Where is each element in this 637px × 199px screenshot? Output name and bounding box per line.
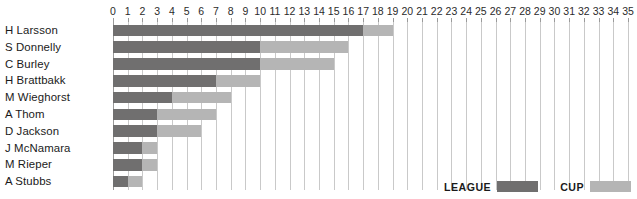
bar-segment-cup[interactable] bbox=[142, 142, 157, 154]
category-label: C Burley bbox=[5, 56, 108, 73]
gridline bbox=[613, 22, 614, 190]
bar-row[interactable] bbox=[113, 58, 334, 70]
category-label: D Jackson bbox=[5, 123, 108, 140]
gridline bbox=[569, 22, 570, 190]
category-label: H Brattbakk bbox=[5, 72, 108, 89]
x-tick-label: 35 bbox=[622, 5, 634, 17]
x-tick-label: 26 bbox=[490, 5, 502, 17]
category-label: M Wieghorst bbox=[5, 89, 108, 106]
bar-row[interactable] bbox=[113, 159, 157, 171]
x-tick-label: 28 bbox=[519, 5, 531, 17]
bar-row[interactable] bbox=[113, 176, 142, 188]
x-tick-label: 31 bbox=[563, 5, 575, 17]
x-tick-label: 29 bbox=[534, 5, 546, 17]
x-tick-label: 6 bbox=[198, 5, 204, 17]
gridline bbox=[628, 22, 629, 190]
bar-row[interactable] bbox=[113, 142, 157, 154]
gridline bbox=[422, 22, 423, 190]
category-label: H Larsson bbox=[5, 22, 108, 39]
category-label: A Thom bbox=[5, 106, 108, 123]
bar-segment-cup[interactable] bbox=[157, 125, 201, 137]
bar-segment-league[interactable] bbox=[113, 125, 157, 137]
gridline bbox=[554, 22, 555, 190]
x-tick-label: 15 bbox=[328, 5, 340, 17]
x-tick-label: 32 bbox=[578, 5, 590, 17]
gridline bbox=[525, 22, 526, 190]
category-label: A Stubbs bbox=[5, 173, 108, 190]
x-tick-label: 3 bbox=[154, 5, 160, 17]
x-tick-label: 11 bbox=[269, 5, 280, 17]
bar-segment-league[interactable] bbox=[113, 75, 216, 87]
x-tick-label: 18 bbox=[372, 5, 384, 17]
gridline bbox=[451, 22, 452, 190]
bar-segment-cup[interactable] bbox=[157, 109, 216, 121]
x-tick-label: 20 bbox=[401, 5, 413, 17]
x-tick-label: 14 bbox=[313, 5, 325, 17]
bar-row[interactable] bbox=[113, 125, 201, 137]
legend-swatch bbox=[590, 181, 631, 192]
category-label: S Donnelly bbox=[5, 39, 108, 56]
bar-row[interactable] bbox=[113, 75, 260, 87]
gridline bbox=[393, 22, 394, 190]
bar-segment-league[interactable] bbox=[113, 142, 142, 154]
gridline bbox=[481, 22, 482, 190]
legend-label: CUP bbox=[560, 181, 584, 193]
x-tick-label: 7 bbox=[213, 5, 219, 17]
bar-segment-cup[interactable] bbox=[128, 176, 143, 188]
x-tick-label: 13 bbox=[298, 5, 310, 17]
bar-segment-cup[interactable] bbox=[260, 58, 334, 70]
gridline bbox=[510, 22, 511, 190]
x-tick-label: 10 bbox=[254, 5, 266, 17]
gridline bbox=[540, 22, 541, 190]
x-tick-label: 5 bbox=[184, 5, 190, 17]
x-tick-label: 25 bbox=[475, 5, 487, 17]
x-tick-label: 16 bbox=[343, 5, 355, 17]
bar-row[interactable] bbox=[113, 25, 393, 37]
chart-legend: LEAGUECUP bbox=[444, 180, 631, 193]
legend-item-league[interactable]: LEAGUE bbox=[444, 181, 538, 193]
bar-segment-league[interactable] bbox=[113, 159, 142, 171]
bar-segment-league[interactable] bbox=[113, 176, 128, 188]
x-tick-label: 33 bbox=[593, 5, 605, 17]
x-tick-label: 22 bbox=[431, 5, 443, 17]
bar-row[interactable] bbox=[113, 41, 348, 53]
x-tick-label: 19 bbox=[387, 5, 399, 17]
x-tick-label: 27 bbox=[504, 5, 516, 17]
x-tick-label: 23 bbox=[446, 5, 458, 17]
x-tick-label: 12 bbox=[284, 5, 296, 17]
x-tick-label: 17 bbox=[357, 5, 369, 17]
bar-row[interactable] bbox=[113, 109, 216, 121]
x-tick-mark bbox=[628, 18, 629, 22]
bar-segment-cup[interactable] bbox=[216, 75, 260, 87]
gridline bbox=[363, 22, 364, 190]
x-tick-label: 9 bbox=[243, 5, 249, 17]
bar-segment-cup[interactable] bbox=[260, 41, 348, 53]
bar-segment-league[interactable] bbox=[113, 109, 157, 121]
gridline bbox=[407, 22, 408, 190]
clipped-title-remnant: · · · · · bbox=[10, 0, 53, 3]
bar-segment-league[interactable] bbox=[113, 41, 260, 53]
gridline bbox=[584, 22, 585, 190]
category-label: J McNamara bbox=[5, 140, 108, 157]
gridline bbox=[496, 22, 497, 190]
legend-item-cup[interactable]: CUP bbox=[560, 181, 631, 193]
x-tick-label: 1 bbox=[125, 5, 131, 17]
category-axis-labels: H LarssonS DonnellyC BurleyH BrattbakkM … bbox=[0, 22, 108, 190]
bar-segment-league[interactable] bbox=[113, 58, 260, 70]
gridline bbox=[378, 22, 379, 190]
bar-segment-cup[interactable] bbox=[363, 25, 392, 37]
bar-segment-league[interactable] bbox=[113, 25, 363, 37]
gridline bbox=[466, 22, 467, 190]
legend-swatch bbox=[497, 181, 538, 192]
x-tick-label: 24 bbox=[460, 5, 472, 17]
x-tick-label: 0 bbox=[110, 5, 116, 17]
category-label: M Rieper bbox=[5, 156, 108, 173]
bar-row[interactable] bbox=[113, 92, 231, 104]
bar-segment-cup[interactable] bbox=[172, 92, 231, 104]
x-tick-label: 8 bbox=[228, 5, 234, 17]
plot-area bbox=[113, 22, 628, 190]
bar-segment-league[interactable] bbox=[113, 92, 172, 104]
bar-segment-cup[interactable] bbox=[142, 159, 157, 171]
gridline bbox=[348, 22, 349, 190]
gridline bbox=[437, 22, 438, 190]
